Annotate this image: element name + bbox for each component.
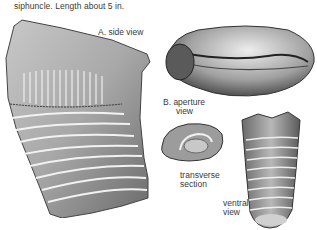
transverse-section-label-line2: section [180, 180, 207, 189]
side-view-figure [2, 18, 157, 218]
fossil-side-view-illustration [2, 18, 157, 218]
ventral-view-figure [238, 110, 304, 230]
ventral-view-label-line2: view [223, 208, 240, 217]
fossil-aperture-view-illustration [158, 22, 317, 98]
caption-text: siphuncle. Length about 5 in. [14, 1, 124, 11]
fossil-transverse-section-illustration [158, 120, 226, 164]
aperture-view-figure [158, 22, 317, 98]
side-view-label: A. side view [98, 28, 143, 37]
fossil-ventral-view-illustration [238, 110, 304, 230]
aperture-view-label-line2: view [176, 107, 193, 116]
transverse-section-figure [158, 120, 226, 164]
